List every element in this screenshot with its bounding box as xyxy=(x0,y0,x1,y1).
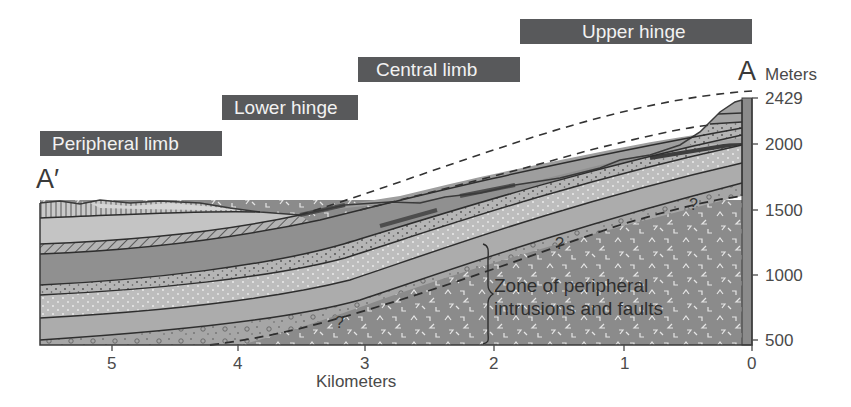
zone-label-central-limb: Central limb xyxy=(358,57,520,82)
uncertain-contact-mark: ? xyxy=(689,193,698,216)
zone-label-upper-hinge: Upper hinge xyxy=(520,19,752,44)
x-tick-label: 5 xyxy=(107,355,116,372)
x-tick-label: 0 xyxy=(747,355,756,372)
y-axis-ticks xyxy=(752,98,758,340)
zone-label-lower-hinge: Lower hinge xyxy=(222,95,358,120)
annotation-line-1: Zone of peripheral xyxy=(494,274,648,297)
section-end-right-label: A xyxy=(738,58,756,85)
x-tick-label: 4 xyxy=(233,355,242,372)
zone-label-peripheral-limb: Peripheral limb xyxy=(40,131,222,156)
y-axis-title: Meters xyxy=(765,66,817,83)
x-axis-title: Kilometers xyxy=(316,373,396,390)
uncertain-contact-mark: ? xyxy=(555,232,564,255)
x-tick-label: 2 xyxy=(489,355,498,372)
annotation-line-2: intrusions and faults xyxy=(494,297,663,320)
section-end-left-label: A′ xyxy=(36,166,59,193)
x-tick-label: 1 xyxy=(620,355,629,372)
x-tick-label: 3 xyxy=(360,355,369,372)
y-tick-label: 1500 xyxy=(765,202,803,219)
y-tick-label: 500 xyxy=(765,332,793,349)
y-tick-label: 1000 xyxy=(765,267,803,284)
y-tick-label: 2429 xyxy=(765,90,803,107)
uncertain-contact-mark: ? xyxy=(335,311,344,334)
x-axis-ticks xyxy=(112,345,752,351)
y-tick-label: 2000 xyxy=(765,136,803,153)
right-boundary-column xyxy=(742,98,752,345)
cross-section-figure: Peripheral limb Lower hinge Central limb… xyxy=(0,0,851,407)
